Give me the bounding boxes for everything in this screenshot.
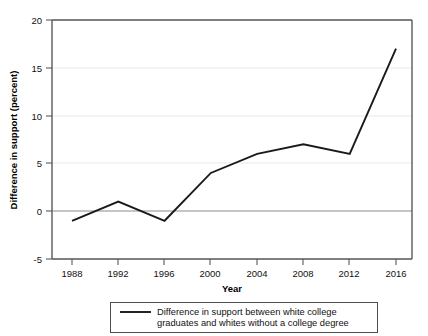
y-tick-label: 15 <box>31 63 42 74</box>
y-tick-label: 5 <box>37 158 42 169</box>
chart-legend: Difference in support between white coll… <box>111 303 378 333</box>
x-tick-label: 2016 <box>385 268 406 279</box>
y-tick-label: 20 <box>31 15 42 26</box>
line-chart: 20 15 10 5 0 -5 1988 1992 1996 2000 2004… <box>0 0 428 336</box>
x-tick-label: 1992 <box>107 268 128 279</box>
x-tick-label: 1996 <box>153 268 174 279</box>
y-axis-title: Difference in support (percent) <box>8 71 19 210</box>
x-tick-marks <box>72 259 396 265</box>
x-tick-label: 1988 <box>61 268 82 279</box>
chart-figure: 20 15 10 5 0 -5 1988 1992 1996 2000 2004… <box>0 0 428 336</box>
x-axis-title: Year <box>222 283 242 294</box>
x-tick-label: 2012 <box>338 268 359 279</box>
legend-label-line2: graduates and whites without a college d… <box>157 318 349 328</box>
legend-label-line1: Difference in support between white coll… <box>157 307 337 317</box>
gridlines <box>52 20 412 259</box>
y-tick-labels: 20 15 10 5 0 -5 <box>31 15 42 265</box>
x-tick-label: 2008 <box>292 268 313 279</box>
x-tick-label: 2004 <box>246 268 267 279</box>
data-series-line <box>72 49 396 221</box>
x-tick-label: 2000 <box>199 268 220 279</box>
y-tick-marks <box>46 20 52 259</box>
x-tick-labels: 1988 1992 1996 2000 2004 2008 2012 2016 <box>61 268 406 279</box>
y-tick-label: -5 <box>34 254 42 265</box>
y-tick-label: 0 <box>37 206 42 217</box>
y-tick-label: 10 <box>31 111 42 122</box>
